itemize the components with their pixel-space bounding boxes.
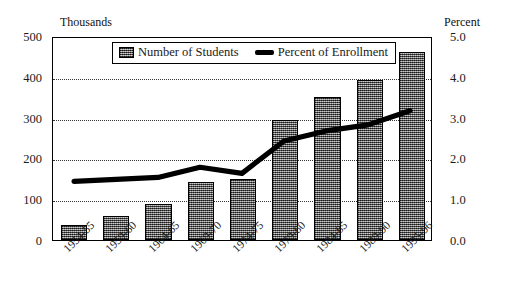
right-axis-tick-0.0: 0.0 <box>450 235 466 248</box>
chart-container: Thousands Percent 0100200300400500 0.01.… <box>0 0 514 305</box>
bar-swatch-icon <box>119 47 134 58</box>
right-axis-tick-2.0: 2.0 <box>450 153 466 166</box>
legend-item-percent-of-enrollment: Percent of Enrollment <box>255 45 388 60</box>
right-axis-caption: Percent <box>444 15 480 30</box>
plot-area <box>52 37 432 241</box>
line-swatch-icon <box>255 50 274 55</box>
right-axis-tick-1.0: 1.0 <box>450 194 466 207</box>
legend-label-percent-of-enrollment: Percent of Enrollment <box>278 45 388 60</box>
right-axis-tick-5.0: 5.0 <box>450 31 466 44</box>
left-axis-tick-0: 0 <box>36 235 42 248</box>
left-axis-tick-400: 400 <box>23 72 42 85</box>
left-axis-caption: Thousands <box>60 15 112 30</box>
left-axis-tick-500: 500 <box>23 31 42 44</box>
legend-item-number-of-students: Number of Students <box>119 45 239 60</box>
chart-legend: Number of Students Percent of Enrollment <box>112 42 396 64</box>
left-axis-tick-300: 300 <box>23 113 42 126</box>
right-axis-tick-3.0: 3.0 <box>450 113 466 126</box>
legend-label-number-of-students: Number of Students <box>138 45 239 60</box>
left-axis-tick-100: 100 <box>23 194 42 207</box>
right-axis-tick-4.0: 4.0 <box>450 72 466 85</box>
line-series <box>53 38 431 240</box>
percent-of-enrollment-line <box>74 111 410 182</box>
left-axis-tick-200: 200 <box>23 153 42 166</box>
